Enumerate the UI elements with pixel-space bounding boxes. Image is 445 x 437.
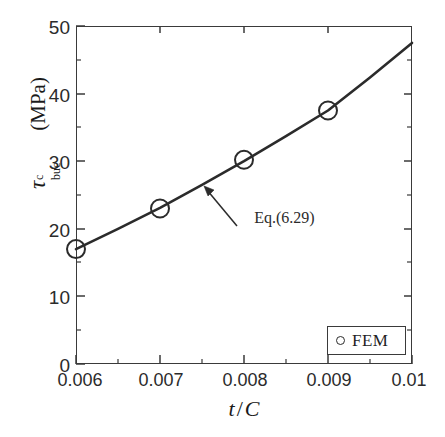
x-axis-slash: / <box>237 396 243 421</box>
open-circle-marker <box>336 336 345 345</box>
x-axis-denominator: C <box>245 396 260 421</box>
x-tick-label: 0.006 <box>57 371 102 389</box>
y-tick-label: 40 <box>49 86 70 105</box>
y-tick-label: 50 <box>49 18 70 37</box>
x-tick-label: 0.008 <box>222 371 267 389</box>
x-tick-label: 0.01 <box>391 371 426 389</box>
figure-chart: 0 10 20 30 40 50 0.006 0.007 0.008 0.009… <box>0 0 445 437</box>
tau-subscript: buc <box>49 163 64 180</box>
plot-area <box>76 26 412 364</box>
x-axis-title: t/C <box>76 396 412 422</box>
tau-superscript: c <box>32 175 47 180</box>
eq-629-annotation-label: Eq.(6.29) <box>254 209 314 227</box>
x-tick-label: 0.007 <box>138 371 183 389</box>
x-axis-tick-labels: 0.006 0.007 0.008 0.009 0.01 <box>0 371 445 397</box>
y-axis-title: τcbuc(MPa) <box>25 33 51 233</box>
legend-entry-label: FEM <box>352 331 388 351</box>
x-tick-label: 0.009 <box>306 371 351 389</box>
y-tick-label: 20 <box>49 221 70 240</box>
y-axis-units: (MPa) <box>26 77 50 131</box>
y-tick-label: 10 <box>49 288 70 307</box>
legend-box: FEM <box>327 326 406 355</box>
tau-symbol: τ <box>25 181 50 189</box>
x-axis-numerator: t <box>229 396 235 421</box>
